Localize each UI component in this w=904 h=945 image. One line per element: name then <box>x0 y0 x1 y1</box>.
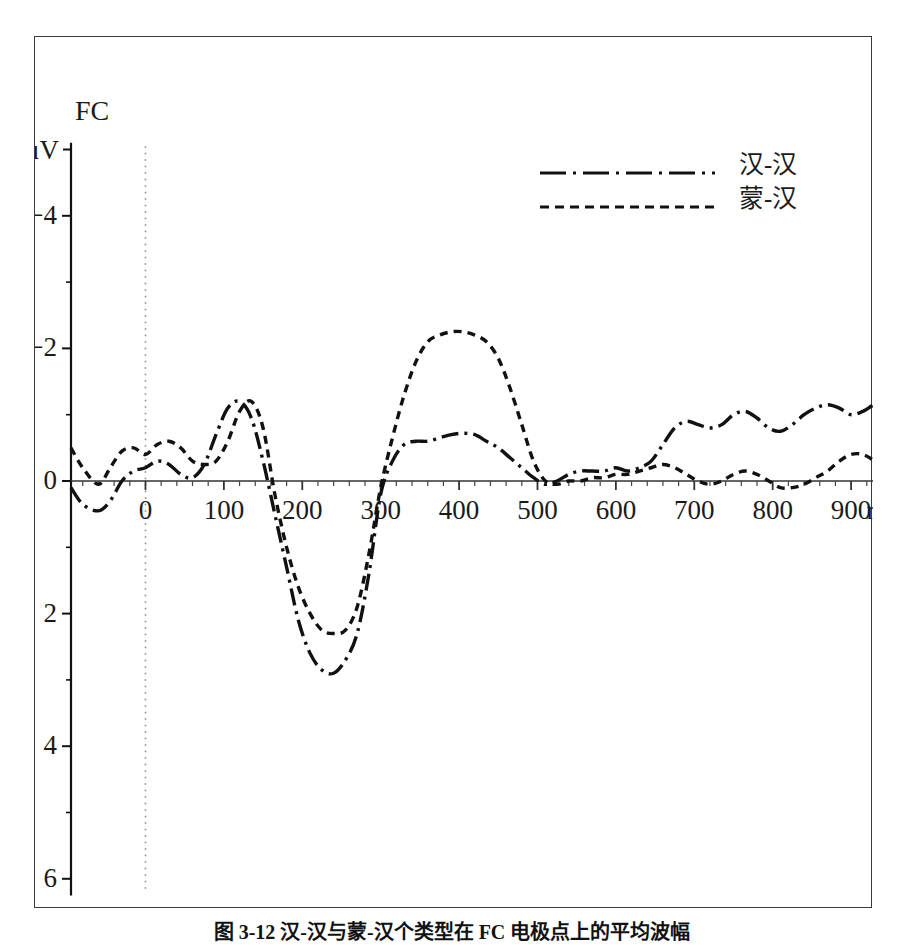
electrode-label: FC <box>75 95 109 126</box>
figure-frame: −4−20246μVFC0100200300400500600700800900… <box>34 36 872 908</box>
y-tick-label: 4 <box>44 730 58 760</box>
y-axis-unit-label: μV <box>35 135 59 165</box>
x-tick-label: 900 <box>831 495 872 525</box>
legend-entry-meng-han: 蒙-汉 <box>540 179 870 213</box>
legend-label-han-han: 汉-汉 <box>739 144 797 180</box>
series-line-meng-han <box>71 331 873 633</box>
x-tick-label: 200 <box>282 495 323 525</box>
x-tick-label: 700 <box>674 495 715 525</box>
y-tick-label: −4 <box>35 200 57 230</box>
y-tick-label: 6 <box>44 863 58 893</box>
legend-line-dashed <box>540 195 715 198</box>
y-tick-label: −2 <box>35 332 57 362</box>
series-line-han-han <box>71 401 873 674</box>
x-tick-label: 600 <box>596 495 637 525</box>
legend-entry-han-han: 汉-汉 <box>540 145 870 179</box>
y-tick-label: 0 <box>44 465 58 495</box>
y-tick-label: 2 <box>44 598 58 628</box>
x-tick-label: 300 <box>360 495 401 525</box>
x-tick-label: 400 <box>439 495 480 525</box>
x-axis-unit-label: ms <box>867 497 873 524</box>
legend: 汉-汉 蒙-汉 <box>540 145 870 213</box>
x-tick-label: 500 <box>517 495 558 525</box>
x-tick-label: 100 <box>204 495 245 525</box>
x-tick-label: 800 <box>752 495 793 525</box>
legend-label-meng-han: 蒙-汉 <box>739 178 797 214</box>
figure-caption: 图 3-12 汉-汉与蒙-汉个类型在 FC 电极点上的平均波幅 <box>0 916 904 945</box>
x-tick-label: 0 <box>139 495 153 525</box>
legend-line-dash-dot <box>540 161 715 164</box>
